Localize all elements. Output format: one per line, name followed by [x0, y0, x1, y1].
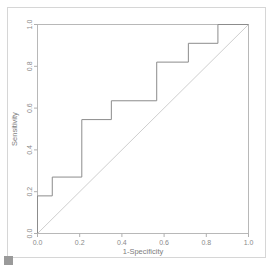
x-tick-label: 1.0 [244, 239, 254, 246]
roc-figure: 0.00.20.40.60.81.0 0.00.20.40.60.81.0 1-… [0, 0, 276, 267]
y-tick-label: 0.0 [26, 229, 33, 239]
y-tick-label: 0.6 [26, 103, 33, 113]
x-tick-label: 0.4 [117, 239, 127, 246]
x-tick-label: 0.6 [159, 239, 169, 246]
y-tick-label: 1.0 [26, 20, 33, 30]
x-tick-label: 0.2 [75, 239, 85, 246]
x-tick-label: 0.8 [201, 239, 211, 246]
x-axis: 0.00.20.40.60.81.0 [33, 234, 254, 246]
x-tick-label: 0.0 [33, 239, 43, 246]
y-tick-label: 0.2 [26, 187, 33, 197]
x-axis-title: 1-Specificity [123, 247, 164, 256]
y-tick-label: 0.4 [26, 145, 33, 155]
chance-reference-line [38, 25, 249, 234]
corner-marker [4, 256, 13, 265]
y-tick-label: 0.8 [26, 61, 33, 71]
y-axis-title: Sensitivity [10, 112, 19, 146]
y-axis: 0.00.20.40.60.81.0 [26, 20, 37, 239]
roc-chart: 0.00.20.40.60.81.0 0.00.20.40.60.81.0 1-… [0, 0, 276, 267]
